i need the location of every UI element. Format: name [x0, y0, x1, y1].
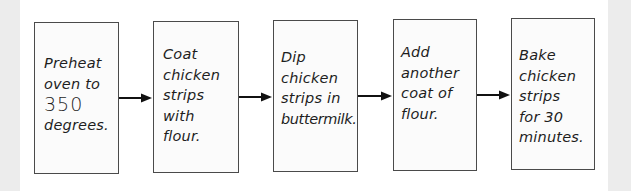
step-text: Add another coat of flour. [401, 42, 472, 124]
arrow-right-icon [119, 92, 153, 104]
step-line: chicken [519, 66, 590, 87]
step-line: flour. [163, 126, 234, 147]
step-line: chicken [163, 65, 234, 86]
step-box-preheat: Preheat oven to 350 degrees. [34, 22, 119, 174]
step-line: another [401, 63, 472, 84]
step-line: Dip [281, 47, 353, 68]
step-text: Preheat oven to 350 degrees. [44, 53, 114, 135]
step-line: flour. [401, 104, 472, 125]
step-box-bake: Bake chicken strips for 30 minutes. [511, 18, 595, 170]
step-text: Coat chicken strips with flour. [163, 44, 234, 147]
step-line: buttermilk. [281, 109, 353, 130]
arrow-right-icon [239, 91, 273, 103]
step-line: strips [519, 86, 590, 107]
arrow-right-icon [358, 90, 393, 102]
step-line: degrees. [44, 115, 114, 136]
step-box-dip-buttermilk: Dip chicken strips in buttermilk. [273, 20, 358, 172]
step-line: Preheat [44, 53, 114, 74]
step-line: coat of [401, 83, 472, 104]
step-line: Coat [163, 44, 234, 65]
step-line: chicken [281, 68, 353, 89]
step-line: strips in [281, 88, 353, 109]
step-line: for 30 [519, 107, 590, 128]
step-line: 350 [44, 94, 114, 115]
step-box-coat-flour: Coat chicken strips with flour. [153, 21, 239, 173]
step-line: minutes. [519, 127, 590, 148]
step-box-add-flour: Add another coat of flour. [393, 19, 477, 171]
step-line: Bake [519, 45, 590, 66]
step-line: oven to [44, 74, 114, 95]
step-line: with [163, 106, 234, 127]
step-text: Bake chicken strips for 30 minutes. [519, 45, 590, 148]
arrow-right-icon [477, 89, 511, 101]
step-text: Dip chicken strips in buttermilk. [281, 47, 353, 129]
step-line: strips [163, 85, 234, 106]
step-line: Add [401, 42, 472, 63]
